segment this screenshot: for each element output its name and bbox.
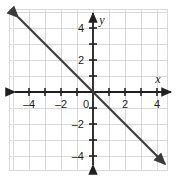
x-tick-label-pos4: 4 (154, 98, 160, 110)
y-tick-label-pos4: 4 (78, 22, 84, 34)
y-tick-label-neg4: –4 (72, 150, 84, 162)
x-tick-label-neg4: –4 (23, 98, 35, 110)
y-tick-label-neg2: –2 (72, 118, 84, 130)
origin-label: 0 (83, 98, 89, 110)
coordinate-plane-figure: –4 –2 0 2 4 4 2 –2 –4 x y (0, 0, 176, 178)
x-tick-label-neg2: –2 (55, 98, 67, 110)
x-tick-label-pos2: 2 (122, 98, 128, 110)
y-axis-label: y (98, 13, 105, 27)
graph-canvas: –4 –2 0 2 4 4 2 –2 –4 x y (0, 0, 176, 178)
x-axis-label: x (154, 72, 161, 86)
y-tick-label-pos2: 2 (78, 54, 84, 66)
